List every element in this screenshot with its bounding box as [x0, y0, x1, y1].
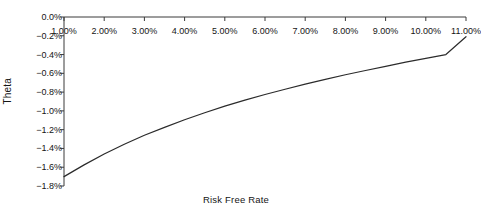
axis-lines	[64, 17, 466, 186]
x-axis-ticks	[64, 17, 466, 21]
theta-series-line	[64, 37, 466, 177]
y-axis-ticks	[60, 17, 64, 186]
x-axis-title: Risk Free Rate	[0, 194, 472, 205]
